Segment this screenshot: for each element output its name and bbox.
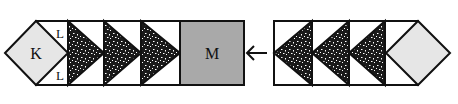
center-square-m: M [180, 21, 244, 85]
left-arrow-icon [247, 46, 267, 60]
left-unit: K L L [5, 21, 180, 85]
quilt-block-diagram: K L L M [0, 0, 458, 104]
flying-geese-right [68, 21, 180, 85]
flying-geese-left [274, 21, 385, 85]
square-m-label: M [205, 45, 219, 62]
corner-label-top: L [56, 26, 64, 41]
right-unit [274, 21, 450, 85]
corner-label-bottom: L [56, 68, 64, 83]
diamond-k-label: K [30, 45, 42, 62]
